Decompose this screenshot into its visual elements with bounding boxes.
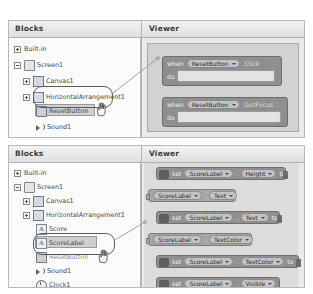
- component-dropdown-scorelabel[interactable]: ScoreLabel: [184, 257, 233, 266]
- expander-plus-icon[interactable]: [23, 78, 30, 85]
- property-dropdown-textcolor[interactable]: TextColor: [209, 235, 253, 244]
- chevron-down-icon[interactable]: [225, 283, 229, 285]
- getter-block-scorelabel-text[interactable]: ScoreLabel . Text: [148, 189, 236, 202]
- event-block-header: when ResetButton .Click: [163, 57, 281, 70]
- tree-item-built-in-top[interactable]: Built-in: [14, 43, 47, 55]
- getter-block-scorelabel-textcolor[interactable]: ScoreLabel . TextColor: [148, 233, 252, 246]
- chevron-down-icon[interactable]: [268, 283, 272, 285]
- sound-icon: [36, 267, 45, 276]
- blocks-canvas-top[interactable]: when ResetButton .Click do when R: [147, 43, 299, 132]
- viewer-header-label-bottom: Viewer: [149, 149, 179, 158]
- chevron-down-icon[interactable]: [268, 173, 272, 175]
- do-socket[interactable]: [177, 111, 281, 123]
- chevron-down-icon[interactable]: [232, 63, 236, 65]
- setter-block-scorelabel-visible-clipped[interactable]: set ScoreLabel . Visible: [156, 277, 280, 287]
- do-keyword: do: [167, 73, 175, 80]
- tree-item-label: HorizontalArrangement1: [46, 211, 125, 220]
- property-dropdown-text[interactable]: Text: [209, 191, 237, 200]
- component-name: ResetButton: [192, 101, 229, 109]
- blocks-viewer-top[interactable]: when ResetButton .Click do when R: [142, 38, 304, 137]
- screen-icon: [24, 182, 35, 193]
- property-name: Visible: [246, 280, 266, 288]
- component-dropdown-scorelabel[interactable]: ScoreLabel: [153, 235, 202, 244]
- expander-plus-icon[interactable]: [23, 94, 30, 101]
- do-socket[interactable]: [177, 70, 275, 82]
- blocks-header-label-bottom: Blocks: [15, 149, 44, 158]
- value-plug[interactable]: [283, 171, 288, 179]
- tree-item-label: Clock1: [49, 281, 70, 288]
- expander-plus-icon[interactable]: [23, 198, 30, 205]
- property-dropdown-textcolor[interactable]: TextColor: [241, 257, 285, 266]
- blocks-canvas-bottom[interactable]: set ScoreLabel . Height to ScoreLabel: [144, 163, 298, 287]
- tree-item-screen1-bottom[interactable]: Screen1: [14, 181, 63, 193]
- component-dropdown-scorelabel[interactable]: ScoreLabel: [184, 169, 233, 178]
- expander-plus-icon[interactable]: [23, 212, 30, 219]
- component-dropdown-scorelabel[interactable]: ScoreLabel: [184, 213, 233, 222]
- value-plug[interactable]: [277, 215, 282, 223]
- set-keyword: set: [172, 280, 181, 287]
- chevron-down-icon[interactable]: [232, 104, 236, 106]
- value-plug[interactable]: [146, 194, 150, 200]
- component-dropdown-scorelabel[interactable]: ScoreLabel: [184, 279, 233, 287]
- tree-item-clock1-bottom[interactable]: Clock1: [36, 279, 70, 287]
- tree-item-horizontalarrangement1-bottom[interactable]: HorizontalArrangement1: [23, 209, 125, 221]
- component-dropdown-resetbutton[interactable]: ResetButton: [187, 100, 240, 109]
- chevron-down-icon[interactable]: [225, 217, 229, 219]
- expander-plus-icon[interactable]: [14, 46, 21, 53]
- component-name: ScoreLabel: [189, 258, 222, 266]
- tree-item-canvas1-bottom[interactable]: Canvas1: [23, 195, 74, 207]
- component-dropdown-resetbutton[interactable]: ResetButton: [187, 59, 240, 68]
- chevron-down-icon[interactable]: [261, 217, 265, 219]
- value-plug[interactable]: [146, 238, 150, 244]
- tree-item-sound1-bottom[interactable]: Sound1: [36, 265, 71, 277]
- sound-icon: [36, 123, 45, 132]
- set-keyword: set: [172, 258, 181, 265]
- value-plug[interactable]: [296, 259, 301, 267]
- chevron-down-icon[interactable]: [245, 239, 249, 241]
- tree-item-built-in-bottom[interactable]: Built-in: [14, 167, 47, 179]
- tree-item-screen1-top[interactable]: Screen1: [14, 59, 63, 71]
- tree-item-sound1-top[interactable]: Sound1: [36, 121, 71, 133]
- dot-separator: .: [205, 236, 207, 244]
- dot-separator: .: [205, 192, 207, 200]
- chevron-down-icon[interactable]: [225, 261, 229, 263]
- property-dropdown-height[interactable]: Height: [241, 169, 277, 178]
- component-name: ScoreLabel: [189, 214, 222, 222]
- setter-block-scorelabel-height[interactable]: set ScoreLabel . Height to: [156, 167, 286, 180]
- do-keyword: do: [167, 114, 175, 121]
- chevron-down-icon[interactable]: [194, 239, 198, 241]
- chevron-down-icon[interactable]: [194, 195, 198, 197]
- expander-minus-icon[interactable]: [14, 62, 21, 69]
- component-name: ResetButton: [192, 60, 229, 68]
- event-block-resetbutton-click[interactable]: when ResetButton .Click do: [162, 56, 282, 86]
- chevron-down-icon[interactable]: [276, 261, 280, 263]
- when-keyword: when: [167, 101, 184, 108]
- property-name: TextColor: [246, 258, 274, 266]
- setter-block-scorelabel-text[interactable]: set ScoreLabel . Text to: [156, 211, 280, 224]
- event-block-do-row: do: [163, 111, 178, 124]
- tree-item-label: Sound1: [47, 123, 71, 132]
- viewer-header-label-top: Viewer: [149, 24, 179, 33]
- to-keyword: to: [287, 258, 293, 265]
- hand-cursor-icon-bottom: [96, 248, 112, 265]
- property-dropdown-text[interactable]: Text: [241, 213, 269, 222]
- chevron-down-icon[interactable]: [229, 195, 233, 197]
- panel-header-top: Blocks Viewer: [9, 21, 304, 38]
- expander-minus-icon[interactable]: [14, 184, 21, 191]
- property-dropdown-visible[interactable]: Visible: [241, 279, 277, 287]
- chevron-down-icon[interactable]: [225, 173, 229, 175]
- dot-separator: .: [236, 170, 238, 178]
- clock-icon: [36, 280, 47, 288]
- expander-plus-icon[interactable]: [14, 170, 21, 177]
- arrangement-icon: [33, 210, 44, 221]
- component-dropdown-scorelabel[interactable]: ScoreLabel: [153, 191, 202, 200]
- event-block-header: when ResetButton .GotFocus: [163, 98, 287, 111]
- canvas-icon: [33, 76, 44, 87]
- property-name: Text: [214, 192, 226, 200]
- event-block-resetbutton-gotfocus[interactable]: when ResetButton .GotFocus do: [162, 97, 288, 127]
- blocks-tree-bottom: Built-in Screen1 Canvas1 HorizontalArran…: [9, 163, 141, 287]
- blocks-viewer-bottom[interactable]: set ScoreLabel . Height to ScoreLabel: [142, 163, 304, 287]
- setter-block-scorelabel-textcolor[interactable]: set ScoreLabel . TextColor to: [156, 255, 299, 268]
- tree-item-label: Canvas1: [46, 77, 74, 86]
- property-name: Text: [246, 214, 258, 222]
